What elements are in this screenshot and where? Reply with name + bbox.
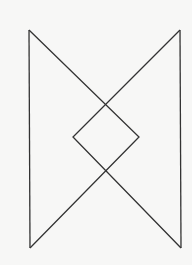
left-side-line	[29, 30, 30, 248]
diagonal-stroke-a	[29, 30, 139, 248]
diagram-canvas	[0, 0, 192, 265]
right-side-line	[180, 30, 181, 248]
hourglass-diamond-figure	[0, 0, 192, 265]
diagonal-stroke-b	[73, 30, 181, 248]
